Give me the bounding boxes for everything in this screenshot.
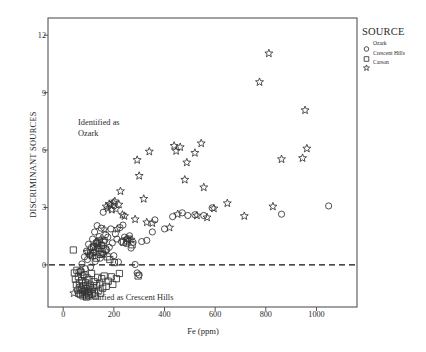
x-tick-label: 600: [209, 310, 221, 319]
annotation-identified-as-ozark: Identified as Ozark: [78, 118, 120, 139]
legend-item-carson[interactable]: Carson: [362, 58, 426, 66]
legend-item-ozark[interactable]: Ozark: [362, 39, 426, 47]
circle-icon: [362, 39, 371, 47]
legend-title: SOURCE: [362, 26, 426, 37]
y-axis-title: DISCRIMINANT SOURCES: [29, 75, 38, 255]
x-tick-label: 200: [108, 310, 120, 319]
legend: SOURCE OzarkCrescent HillsCarson: [362, 26, 426, 68]
legend-item-crescent-hills[interactable]: Crescent Hills: [362, 49, 426, 57]
annotation-identified-as-crescent-hills: Identified as Crescent Hills: [82, 293, 173, 304]
y-tick-label: 12: [38, 31, 46, 40]
y-tick-label: 0: [42, 260, 46, 269]
star-icon: [362, 58, 371, 66]
x-tick-label: 0: [61, 310, 65, 319]
legend-item-label: Ozark: [373, 40, 387, 46]
legend-items: OzarkCrescent HillsCarson: [362, 39, 426, 66]
scatter-plot-figure: DISCRIMINANT SOURCES Fe (ppm) 0200400600…: [0, 0, 426, 352]
legend-item-label: Crescent Hills: [373, 50, 405, 56]
square-icon: [362, 49, 371, 57]
y-tick-label: 6: [42, 146, 46, 155]
x-tick-label: 400: [158, 310, 170, 319]
x-tick-label: 1000: [308, 310, 324, 319]
x-axis-title: Fe (ppm): [48, 326, 358, 336]
legend-item-label: Carson: [373, 59, 389, 65]
plot-frame: [48, 18, 357, 307]
x-tick-label: 800: [260, 310, 272, 319]
y-tick-label: 3: [42, 203, 46, 212]
y-tick-label: 9: [42, 88, 46, 97]
